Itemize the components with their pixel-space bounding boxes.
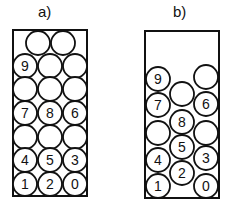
ball-unlabeled <box>63 54 87 78</box>
ball-unlabeled <box>13 125 37 149</box>
ball-6: 6 <box>194 92 218 116</box>
ball-number: 7 <box>21 105 29 121</box>
ball-8: 8 <box>170 110 194 134</box>
panel-a: 9786453120 <box>13 30 87 196</box>
ball-unlabeled <box>38 125 62 149</box>
ball-number: 8 <box>46 105 54 121</box>
ball-4: 4 <box>13 148 37 172</box>
ball-3: 3 <box>63 148 87 172</box>
ball-number: 5 <box>46 152 54 168</box>
ball-2: 2 <box>170 161 194 185</box>
ball-6: 6 <box>63 101 87 125</box>
ball-number: 6 <box>71 105 79 121</box>
ball-unlabeled <box>194 121 218 145</box>
ball-8: 8 <box>38 101 62 125</box>
ball-unlabeled <box>63 77 87 101</box>
ball-number: 4 <box>154 152 162 168</box>
ball-7: 7 <box>13 101 37 125</box>
diagram-stage: a) b) 9786453120 9768543210 <box>0 0 230 208</box>
ball-number: 3 <box>202 150 210 166</box>
ball-1: 1 <box>146 174 170 198</box>
ball-7: 7 <box>146 93 170 117</box>
ball-number: 2 <box>178 165 186 181</box>
ball-unlabeled <box>146 121 170 145</box>
ball-5: 5 <box>38 148 62 172</box>
ball-number: 2 <box>46 176 54 192</box>
ball-5: 5 <box>170 135 194 159</box>
ball-number: 8 <box>178 114 186 130</box>
ball-0: 0 <box>194 174 218 198</box>
ball-number: 6 <box>202 96 210 112</box>
ball-number: 5 <box>178 139 186 155</box>
ball-unlabeled <box>51 31 75 55</box>
ball-number: 1 <box>154 178 162 194</box>
ball-unlabeled <box>194 65 218 89</box>
ball-number: 9 <box>21 58 29 74</box>
ball-unlabeled <box>63 125 87 149</box>
ball-3: 3 <box>194 146 218 170</box>
ball-number: 7 <box>154 97 162 113</box>
ball-9: 9 <box>146 67 170 91</box>
ball-unlabeled <box>26 31 50 55</box>
ball-number: 0 <box>71 176 79 192</box>
ball-number: 0 <box>202 178 210 194</box>
ball-0: 0 <box>63 172 87 196</box>
ball-9: 9 <box>13 54 37 78</box>
ball-2: 2 <box>38 172 62 196</box>
ball-unlabeled <box>13 77 37 101</box>
ball-number: 1 <box>21 176 29 192</box>
ball-unlabeled <box>170 82 194 106</box>
ball-1: 1 <box>13 172 37 196</box>
ball-4: 4 <box>146 148 170 172</box>
ball-number: 9 <box>154 71 162 87</box>
ball-unlabeled <box>38 54 62 78</box>
ball-unlabeled <box>38 77 62 101</box>
packing-diagram: 9786453120 9768543210 <box>0 0 230 208</box>
ball-number: 4 <box>21 152 29 168</box>
panel-b: 9768543210 <box>145 31 219 198</box>
ball-number: 3 <box>71 152 79 168</box>
